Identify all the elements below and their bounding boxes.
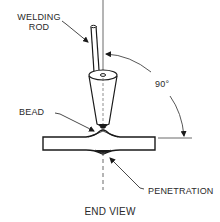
penetration (95, 150, 111, 153)
angle-label: 90° (155, 79, 169, 89)
angle-arc-lower (170, 96, 184, 136)
welding-rod-label-line2: ROD (17, 22, 61, 32)
caption: END VIEW (0, 207, 220, 217)
angle-arc-upper (106, 54, 151, 72)
penetration-label: PENETRATION (148, 186, 214, 196)
penetration-leader (110, 158, 144, 189)
base-plate (43, 130, 155, 154)
welding-rod (91, 25, 99, 72)
electrode-holder (89, 70, 117, 128)
welding-rod-label-line1: WELDING (17, 12, 61, 22)
bead-leader (55, 113, 94, 131)
bead-label: BEAD (19, 107, 44, 117)
welding-rod-leader (62, 21, 88, 42)
welding-rod-label: WELDING ROD (17, 12, 61, 32)
